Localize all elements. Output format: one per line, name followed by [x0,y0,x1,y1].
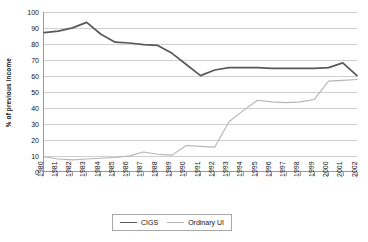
series-layer [44,12,357,171]
x-axis-tick-label: 1997 [279,161,286,177]
series-line-cigs [44,22,357,75]
series-line-ordinary-ui [44,80,357,160]
legend-entry-cigs[interactable]: CIGS [120,219,158,226]
x-axis-tick-label: 1994 [236,161,243,177]
x-axis-tick [300,172,301,176]
x-axis-tick-label: 1980 [36,161,43,177]
x-axis-tick-label: 1990 [179,161,186,177]
x-axis-tick [171,172,172,176]
line-chart: % of previous income 0102030405060708090… [0,0,368,242]
x-axis-tick [114,172,115,176]
legend-entry-ordinary-ui[interactable]: Ordinary UI [167,219,224,226]
x-axis-tick [328,172,329,176]
x-axis-tick-label: 2000 [321,161,328,177]
x-axis-tick-label: 1983 [79,161,86,177]
x-axis-tick-label: 1998 [293,161,300,177]
x-axis-tick-label: 1993 [222,161,229,177]
x-axis-tick-label: 1984 [93,161,100,177]
y-axis-tick-label: 90 [31,25,39,32]
y-axis-tick-label: 50 [31,89,39,96]
x-axis-tick [286,172,287,176]
x-axis-tick-label: 1988 [150,161,157,177]
y-axis-tick-label: 60 [31,73,39,80]
y-axis-tick-label: 70 [31,57,39,64]
chart-legend: CIGSOrdinary UI [112,214,232,231]
x-axis-tick-label: 1981 [50,161,57,177]
x-axis-tick-label: 2002 [350,161,357,177]
x-axis-tick [243,172,244,176]
x-axis-tick [129,172,130,176]
x-axis-tick-label: 1987 [136,161,143,177]
x-axis-tick [186,172,187,176]
y-axis-tick-label: 10 [31,153,39,160]
x-axis-tick-label: 1991 [193,161,200,177]
x-axis-tick-labels: 1980198119821983198419851986198719881989… [43,177,357,209]
plot-area [43,12,357,172]
legend-label: Ordinary UI [188,219,224,226]
x-axis-tick-label: 1996 [264,161,271,177]
legend-line-icon [120,222,137,223]
x-axis-tick [86,172,87,176]
x-axis-tick-label: 1989 [164,161,171,177]
x-axis-tick [271,172,272,176]
y-axis-tick-labels: 0102030405060708090100 [17,12,41,172]
x-axis-tick-label: 2001 [336,161,343,177]
y-axis-tick-label: 40 [31,105,39,112]
legend-line-icon [167,222,184,223]
y-axis-title-label: % of previous income [5,58,12,127]
x-axis-tick [72,172,73,176]
x-axis-tick [229,172,230,176]
x-axis-tick-label: 1999 [307,161,314,177]
x-axis-tick [143,172,144,176]
y-axis-title: % of previous income [0,0,16,185]
y-axis-tick-label: 80 [31,41,39,48]
x-axis-tick-label: 1985 [107,161,114,177]
x-axis-tick-label: 1986 [122,161,129,177]
legend-label: CIGS [141,219,158,226]
y-axis-tick-label: 30 [31,121,39,128]
y-axis-tick-label: 100 [27,9,39,16]
x-axis-tick-label: 1992 [207,161,214,177]
y-axis-tick-label: 20 [31,137,39,144]
x-axis-tick-label: 1995 [250,161,257,177]
x-axis-tick-label: 1982 [65,161,72,177]
x-axis-tick [343,172,344,176]
